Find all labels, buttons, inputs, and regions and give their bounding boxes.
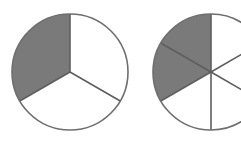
label-left-fraction: 1	[105, 140, 120, 144]
fraction-circles-canvas	[0, 0, 241, 144]
cut-off-label-strip: 1 2	[0, 136, 241, 144]
circle-right	[153, 14, 241, 130]
circle-left	[12, 14, 128, 130]
label-right-fraction: 2	[166, 140, 181, 144]
fraction-circles-figure: 1 2	[0, 0, 241, 144]
